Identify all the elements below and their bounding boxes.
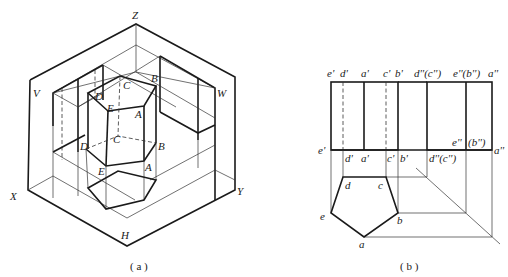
label-a-prime-top: a' [361,67,370,79]
label-b-prime-top: b' [395,67,404,79]
w-mid-line [136,72,215,118]
figure-b-orthographic: e' d' a' c' b' d''(c'') e''(b'') a'' e' … [318,67,505,273]
label-a-side-top: a'' [488,67,499,79]
label-e-side-bottom: e'' [452,136,462,148]
w-step [160,112,215,133]
mid-label-e: E [97,165,105,177]
label-a-prime-bottom: a' [361,152,370,164]
top-label-a: A [134,108,142,120]
label-e-prime-top: e' [327,67,335,79]
mid-label-d: D [79,140,88,152]
w-plane-label: W [217,87,227,99]
label-d-prime-bottom: d' [345,152,354,164]
caption-b: ( b ) [400,260,419,273]
mid-label-b: B [158,140,165,152]
top-label-e: E [106,102,114,114]
label-e-prime-bottom: e' [318,144,326,156]
label-c-prime-top: c' [383,67,391,79]
label-a: a [359,238,365,250]
edge-e [106,111,108,166]
label-dc-side-bottom: d''(c'') [429,152,456,165]
label-c: c [378,179,383,191]
label-dc-side-top: d''(c'') [414,67,441,80]
label-b-side-bottom: (b'') [468,136,486,149]
label-b: b [397,214,403,226]
top-label-c: C [123,79,131,91]
v-plane-label: V [33,87,41,99]
edge-c-hidden [118,76,120,136]
figure-a-isometric: Z V W X Y H C B D E A C B D E A ( a ) [9,9,245,273]
mid-pentagon-hidden [86,136,156,149]
outer-frame [28,24,235,246]
top-view-pentagon [331,177,398,237]
miter-line [416,168,500,244]
h-floor-line [53,152,135,200]
label-d: d [345,179,351,191]
label-d-prime-top: d' [340,67,349,79]
top-grid-diag [103,65,176,107]
y-axis-label: Y [237,185,245,197]
label-e: e [320,210,325,222]
mid-label-c: C [113,133,121,145]
z-axis-label: Z [132,9,139,21]
label-c-prime-bottom: c' [387,152,395,164]
label-a-side-bottom: a'' [494,144,505,156]
label-b-prime-bottom: b' [400,152,409,164]
h-floor-inner [28,170,235,218]
proj-d [86,149,88,188]
top-label-b: B [151,72,158,84]
caption-a: ( a ) [130,260,148,273]
top-label-d: D [94,90,103,102]
projection-diagram: Z V W X Y H C B D E A C B D E A ( a ) [0,0,508,277]
label-eb-side-top: e''(b'') [453,67,480,80]
x-axis-label: X [9,190,18,202]
h-plane-label: H [120,229,130,241]
mid-label-a: A [144,161,152,173]
